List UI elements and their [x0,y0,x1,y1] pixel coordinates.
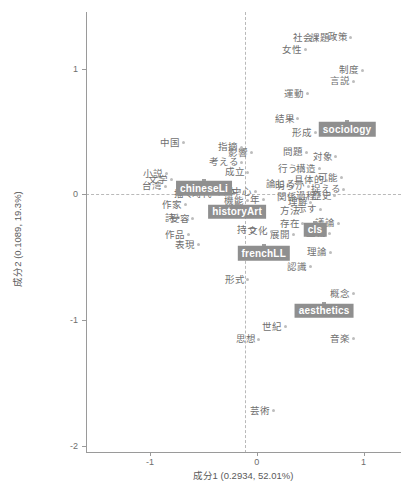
point-label: 指摘 [218,139,238,153]
data-point [240,146,243,149]
data-point [272,409,275,412]
point-label: 概念 [330,286,350,300]
group-label-frenchll: frenchLL [238,246,290,261]
x-axis-title: 成分1 (0.2934, 52.01%) [193,468,294,482]
point-label: 結果 [275,111,295,125]
point-label: 問題 [283,144,303,158]
point-label: 示す [297,201,317,215]
data-point [304,48,307,51]
x-tick-mark [150,452,151,456]
data-point [257,338,260,341]
data-point [342,188,345,191]
group-label-cls: cls [304,222,327,237]
data-point [191,217,194,220]
group-label-historyart: historyArt [208,205,266,220]
data-point [262,198,265,201]
x-axis-line [86,452,401,453]
data-point [240,161,243,164]
point-label: 政策 [328,29,348,43]
data-point [314,131,317,134]
data-point [337,222,340,225]
y-tick-label: 0 [58,189,78,199]
x-tick-label: 1 [361,457,366,467]
point-label: 女性 [282,42,302,56]
data-point [352,337,355,340]
point-label: 世紀 [262,319,282,333]
correspondence-analysis-plot: 社会課題政策女性制度言説運動結果形成問題対象構造行う具体的可能明らか捉える論じる… [0,0,405,487]
group-label-chineseli: chineseLi [176,181,232,196]
x-tick-mark [364,452,365,456]
data-point [340,176,343,179]
x-tick-mark [257,452,258,456]
point-label: 形式 [225,272,245,286]
data-point [334,155,337,158]
data-point [165,172,168,175]
point-label: 台湾 [142,178,162,192]
point-label: 運動 [284,86,304,100]
data-point [187,233,190,236]
data-point [305,151,308,154]
data-point [296,117,299,120]
data-point [246,199,249,202]
data-point [361,69,364,72]
point-label: 認識 [287,259,307,273]
y-tick-mark [82,194,86,195]
data-point [333,194,336,197]
x-tick-label: -1 [146,457,154,467]
data-point [329,251,332,254]
point-label: 芸術 [250,403,270,417]
data-point [259,229,262,232]
point-label: 歴史 [312,188,332,202]
data-point [270,230,273,233]
data-point [284,325,287,328]
y-tick-label: 1 [58,64,78,74]
data-point [309,265,312,268]
data-point [352,292,355,295]
data-point [306,92,309,95]
data-point [352,80,355,83]
data-point [250,151,253,154]
data-point [184,203,187,206]
y-tick-mark [82,446,86,447]
y-tick-label: -1 [58,315,78,325]
group-label-aesthetics: aesthetics [295,303,354,318]
x-tick-label: 0 [254,457,259,467]
point-label: 音楽 [330,331,350,345]
y-axis-title: 成分2 (0.1089, 19.3%) [10,174,24,304]
y-axis-line [86,12,87,453]
data-point [197,243,200,246]
point-label: 表現 [175,237,195,251]
data-point [298,182,301,185]
y-tick-mark [82,320,86,321]
point-label: 論じる [266,176,296,190]
point-label: 思想 [236,331,256,345]
point-label: 展開 [270,227,290,241]
data-point [328,232,331,235]
data-point [300,168,303,171]
data-point [349,36,352,39]
data-point [170,178,173,181]
data-point [319,208,322,211]
data-point [182,141,185,144]
data-point [164,185,167,188]
data-point [246,171,249,174]
data-point [246,278,249,281]
point-label: 形成 [292,125,312,139]
group-label-sociology: sociology [319,122,375,137]
data-point [292,233,295,236]
point-label: 中国 [160,135,180,149]
point-label: 理論 [307,244,327,258]
y-tick-mark [82,69,86,70]
point-label: 言説 [330,73,350,87]
point-label: 受容 [170,211,190,225]
y-tick-label: -2 [58,441,78,451]
point-label: 持つ [237,222,257,236]
